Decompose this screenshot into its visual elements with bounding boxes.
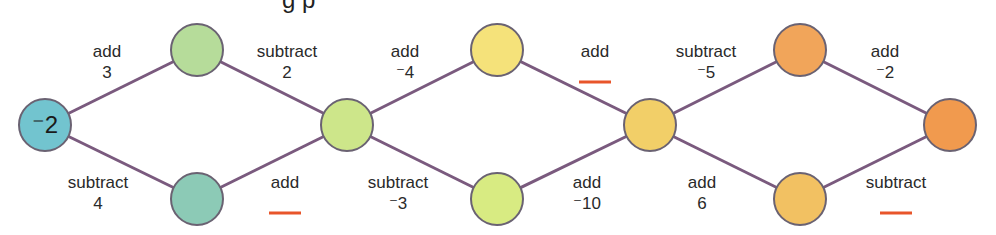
edge-operation: add	[391, 42, 419, 61]
edge-operation: add	[93, 42, 121, 61]
node-circle[interactable]	[924, 99, 976, 151]
node-circle[interactable]	[171, 173, 223, 225]
number-path-diagram: add3subtract4subtract2addadd⁻4subtract⁻3…	[0, 0, 996, 235]
node-circle[interactable]	[471, 173, 523, 225]
edge-operand: 6	[697, 194, 706, 213]
edge-operand: 2	[282, 63, 291, 82]
edge-operand: ⁻5	[697, 63, 715, 82]
node-circle[interactable]	[171, 24, 223, 76]
edge-operation: add	[271, 173, 299, 192]
edge-operation: add	[688, 173, 716, 192]
edge-operation: add	[573, 173, 601, 192]
node-circle[interactable]	[471, 24, 523, 76]
edge-operand: 4	[93, 194, 102, 213]
edge-operand: 3	[102, 63, 111, 82]
edge-operation: subtract	[676, 42, 737, 61]
edge-operand: ⁻4	[396, 63, 414, 82]
nodes-layer: ⁻2	[19, 24, 976, 225]
edge-operand: ⁻3	[389, 194, 407, 213]
node-value: ⁻2	[32, 111, 58, 138]
node-circle[interactable]	[624, 99, 676, 151]
edge-operation: subtract	[257, 42, 318, 61]
edge-operation: subtract	[368, 173, 429, 192]
node-circle[interactable]	[774, 173, 826, 225]
node-circle[interactable]	[321, 99, 373, 151]
edge-operation: subtract	[866, 173, 927, 192]
node-circle[interactable]	[774, 24, 826, 76]
edge-operation: add	[581, 42, 609, 61]
edge-operand: ⁻10	[573, 194, 601, 213]
edge-operand: ⁻2	[876, 63, 894, 82]
edge-operation: subtract	[68, 173, 129, 192]
edge-operation: add	[871, 42, 899, 61]
